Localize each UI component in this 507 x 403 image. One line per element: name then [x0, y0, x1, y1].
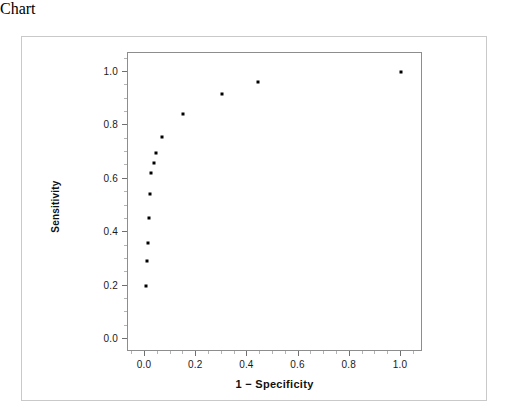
y-tick-minor	[124, 311, 127, 312]
x-tick-minor	[285, 351, 286, 354]
y-tick-label: 0.6	[103, 172, 118, 183]
x-tick-mark	[246, 351, 247, 356]
data-point	[146, 259, 149, 262]
data-point	[148, 216, 151, 219]
x-axis: 0.00.20.40.60.81.0	[127, 351, 422, 377]
x-tick-minor	[362, 351, 363, 354]
x-tick-minor	[259, 351, 260, 354]
y-tick-mark	[122, 338, 127, 339]
x-tick-mark	[195, 351, 196, 356]
data-point	[256, 80, 259, 83]
y-tick-minor	[124, 271, 127, 272]
x-tick-minor	[336, 351, 337, 354]
x-tick-minor	[234, 351, 235, 354]
data-point	[147, 241, 150, 244]
x-tick-minor	[272, 351, 273, 354]
data-point	[160, 135, 163, 138]
x-tick-minor	[182, 351, 183, 354]
x-tick-minor	[374, 351, 375, 354]
y-tick-mark	[122, 178, 127, 179]
x-tick-minor	[157, 351, 158, 354]
y-tick-minor	[124, 191, 127, 192]
y-tick-minor	[124, 58, 127, 59]
y-tick-mark	[122, 124, 127, 125]
x-tick-minor	[131, 351, 132, 354]
y-tick-mark	[122, 285, 127, 286]
y-tick-minor	[124, 138, 127, 139]
x-tick-mark	[349, 351, 350, 356]
x-tick-label: 0.6	[290, 359, 305, 370]
y-tick-minor	[124, 84, 127, 85]
data-point	[149, 192, 152, 195]
x-tick-minor	[387, 351, 388, 354]
y-tick-label: 0.4	[103, 226, 118, 237]
x-tick-minor	[221, 351, 222, 354]
x-tick-label: 0.0	[137, 359, 152, 370]
scatter-data-layer	[128, 53, 421, 350]
x-tick-mark	[298, 351, 299, 356]
y-tick-label: 0.0	[103, 333, 118, 344]
y-tick-mark	[122, 71, 127, 72]
x-tick-mark	[144, 351, 145, 356]
x-tick-minor	[170, 351, 171, 354]
data-point	[221, 92, 224, 95]
y-tick-minor	[124, 205, 127, 206]
x-tick-minor	[208, 351, 209, 354]
x-tick-mark	[400, 351, 401, 356]
data-point	[149, 171, 152, 174]
y-tick-label: 0.8	[103, 119, 118, 130]
x-tick-label: 1.0	[393, 359, 408, 370]
x-tick-minor	[323, 351, 324, 354]
y-tick-minor	[124, 164, 127, 165]
y-tick-minor	[124, 151, 127, 152]
y-tick-minor	[124, 218, 127, 219]
data-point	[145, 284, 148, 287]
data-point	[152, 161, 155, 164]
y-axis-title: Sensitivity	[50, 137, 61, 277]
plot-panel	[127, 52, 422, 351]
figure-card: 0.00.20.40.60.81.0 0.00.20.40.60.81.0 1 …	[21, 36, 487, 401]
y-tick-minor	[124, 245, 127, 246]
data-point	[155, 151, 158, 154]
x-tick-label: 0.8	[342, 359, 357, 370]
y-tick-minor	[124, 258, 127, 259]
x-axis-title: 1 − Specificity	[127, 378, 422, 390]
roc-chart-screenshot: 0.00.20.40.60.81.0 0.00.20.40.60.81.0 1 …	[0, 18, 507, 403]
x-tick-label: 0.2	[188, 359, 203, 370]
y-tick-minor	[124, 98, 127, 99]
x-tick-minor	[310, 351, 311, 354]
data-point	[181, 112, 184, 115]
y-tick-minor	[124, 325, 127, 326]
y-tick-minor	[124, 298, 127, 299]
y-tick-minor	[124, 111, 127, 112]
data-point	[400, 71, 403, 74]
y-axis: 0.00.20.40.60.81.0	[97, 52, 127, 351]
x-tick-minor	[413, 351, 414, 354]
y-tick-label: 0.2	[103, 279, 118, 290]
y-tick-label: 1.0	[103, 66, 118, 77]
x-tick-label: 0.4	[239, 359, 254, 370]
y-tick-mark	[122, 231, 127, 232]
